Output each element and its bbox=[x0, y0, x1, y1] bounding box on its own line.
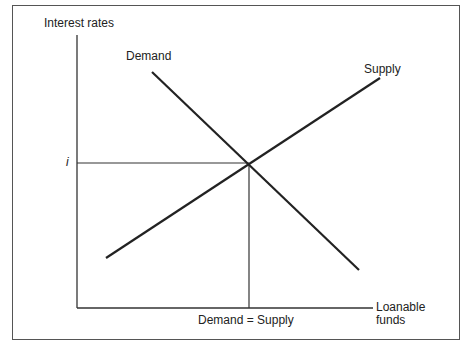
demand-curve bbox=[152, 72, 359, 270]
x-axis-label-line2: funds bbox=[376, 314, 425, 327]
supply-curve bbox=[106, 78, 380, 258]
x-axis-label: Loanable funds bbox=[376, 301, 425, 327]
demand-curve-label: Demand bbox=[126, 49, 171, 63]
equilibrium-rate-label: i bbox=[66, 155, 69, 169]
loanable-funds-diagram bbox=[0, 0, 472, 349]
y-axis-label: Interest rates bbox=[44, 16, 114, 30]
equilibrium-quantity-label: Demand = Supply bbox=[198, 313, 294, 327]
supply-curve-label: Supply bbox=[364, 62, 401, 76]
